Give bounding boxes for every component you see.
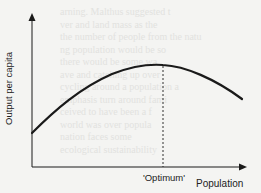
- optimum-population-diagram: [0, 0, 261, 193]
- output-per-capita-curve: [32, 65, 242, 133]
- x-axis-arrow-icon: [239, 164, 247, 171]
- optimum-label: 'Optimum': [138, 172, 190, 183]
- y-axis-label: Output per capita: [3, 47, 14, 131]
- x-axis-label: Population: [196, 178, 243, 189]
- y-axis-arrow-icon: [29, 13, 36, 21]
